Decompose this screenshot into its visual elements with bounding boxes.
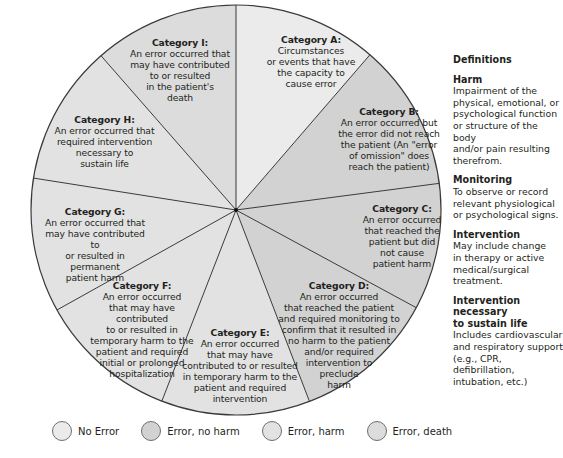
segment-d-category: Category D: xyxy=(274,280,404,291)
segment-h-category: Category H: xyxy=(52,114,157,125)
definition-text-intervention-sustain-life: Includes cardiovascular and respiratory … xyxy=(453,329,563,387)
legend: No Error Error, no harm Error, harm Erro… xyxy=(52,421,474,441)
segment-g-category: Category G: xyxy=(40,206,150,217)
segment-label-h: Category H: An error occurred that requi… xyxy=(52,114,157,169)
segment-c-category: Category C: xyxy=(352,203,452,214)
legend-label-error-death: Error, death xyxy=(393,426,453,437)
segment-f-description: An error occurred that may have contribu… xyxy=(82,291,202,379)
segment-label-g: Category G: An error occurred that may h… xyxy=(40,206,150,283)
legend-swatch-error-harm-icon xyxy=(262,421,282,441)
definition-term-intervention: Intervention xyxy=(453,229,563,241)
segment-h-description: An error occurred that required interven… xyxy=(52,125,157,169)
legend-item-error-harm: Error, harm xyxy=(262,421,345,441)
wheel-center-dot xyxy=(234,208,238,212)
segment-b-description: An error occurred but the error did not … xyxy=(324,117,454,172)
legend-label-error-harm: Error, harm xyxy=(288,426,345,437)
segment-i-description: An error occurred that may have contribu… xyxy=(130,48,230,103)
segment-a-category: Category A: xyxy=(256,34,366,45)
legend-label-error-no-harm: Error, no harm xyxy=(167,426,240,437)
segment-label-f: Category F: An error occurred that may h… xyxy=(82,280,202,379)
definition-term-intervention-sustain-life: Intervention necessary to sustain life xyxy=(453,295,563,330)
segment-c-description: An error occurred that reached the patie… xyxy=(352,214,452,269)
legend-swatch-error-death-icon xyxy=(367,421,387,441)
legend-swatch-error-no-harm-icon xyxy=(141,421,161,441)
definition-term-monitoring: Monitoring xyxy=(453,174,563,186)
definition-text-harm: Impairment of the physical, emotional, o… xyxy=(453,85,563,166)
definition-text-intervention: May include change in therapy or active … xyxy=(453,240,563,286)
segment-g-description: An error occurred that may have contribu… xyxy=(40,217,150,283)
segment-label-i: Category I: An error occurred that may h… xyxy=(130,37,230,103)
segment-label-a: Category A: Circumstances or events that… xyxy=(256,34,366,89)
legend-item-error-no-harm: Error, no harm xyxy=(141,421,240,441)
segment-a-description: Circumstances or events that have the ca… xyxy=(256,45,366,89)
segment-i-category: Category I: xyxy=(130,37,230,48)
definition-text-monitoring: To observe or record relevant physiologi… xyxy=(453,186,563,221)
definitions-title: Definitions xyxy=(453,54,563,66)
legend-label-no-error: No Error xyxy=(78,426,119,437)
legend-item-error-death: Error, death xyxy=(367,421,453,441)
definitions-panel: Definitions Harm Impairment of the physi… xyxy=(453,54,563,395)
definition-term-harm: Harm xyxy=(453,74,563,86)
segment-label-c: Category C: An error occurred that reach… xyxy=(352,203,452,269)
segment-label-b: Category B: An error occurred but the er… xyxy=(324,106,454,172)
legend-swatch-no-error-icon xyxy=(52,421,72,441)
legend-item-no-error: No Error xyxy=(52,421,119,441)
segment-b-category: Category B: xyxy=(324,106,454,117)
